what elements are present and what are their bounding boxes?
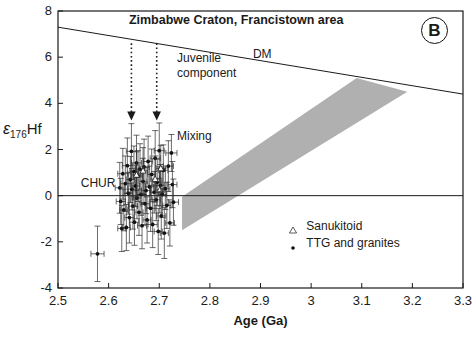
figure-panel-b: 86420-2-42.52.62.72.82.933.13.23.3ε176Hf… bbox=[0, 0, 474, 341]
y-tick-label: 6 bbox=[24, 50, 52, 63]
data-point bbox=[122, 138, 132, 193]
legend-open-triangle-icon bbox=[288, 221, 298, 231]
marker-filled-dot bbox=[125, 164, 129, 168]
legend: SanukitoidTTG and granites bbox=[288, 219, 399, 253]
x-tick-label: 2.9 bbox=[243, 294, 279, 307]
data-point bbox=[118, 205, 126, 251]
legend-label: Sanukitoid bbox=[306, 219, 362, 233]
marker-filled-dot bbox=[119, 200, 123, 204]
y-tick-label: 2 bbox=[24, 143, 52, 156]
marker-filled-dot bbox=[145, 218, 149, 222]
data-point bbox=[91, 226, 104, 281]
marker-filled-dot bbox=[146, 160, 150, 164]
arrow-juvenile-1-head bbox=[127, 111, 135, 120]
marker-filled-dot bbox=[133, 220, 137, 224]
marker-filled-dot bbox=[170, 151, 174, 155]
y-axis-label: ε176Hf bbox=[3, 121, 42, 140]
legend-filled-dot-icon bbox=[288, 238, 298, 248]
x-axis-label: Age (Ga) bbox=[221, 314, 301, 327]
plot-canvas bbox=[0, 0, 474, 341]
marker-filled-dot bbox=[130, 149, 134, 153]
marker-filled-dot bbox=[172, 200, 176, 204]
marker-filled-dot bbox=[151, 223, 155, 227]
chart-title: Zimbabwe Craton, Francistown area bbox=[129, 14, 344, 27]
marker-filled-dot bbox=[127, 216, 131, 220]
marker-filled-dot bbox=[121, 172, 125, 176]
annotation-dm-label: DM bbox=[253, 47, 272, 61]
panel-label-b: B bbox=[421, 17, 448, 44]
marker-filled-dot bbox=[124, 226, 128, 230]
data-point bbox=[156, 145, 165, 191]
marker-filled-dot bbox=[158, 183, 162, 187]
legend-label: TTG and granites bbox=[306, 236, 399, 250]
y-tick-label: -4 bbox=[24, 281, 52, 294]
y-tick-label: 0 bbox=[24, 189, 52, 202]
x-tick-label: 3.3 bbox=[445, 294, 474, 307]
series-ttg-and-granites bbox=[91, 123, 179, 282]
marker-filled-dot bbox=[156, 230, 160, 234]
x-tick-label: 3.1 bbox=[344, 294, 380, 307]
annotation-juvenile-component: Juvenilecomponent bbox=[177, 51, 236, 79]
annotation-mixing: Mixing bbox=[177, 129, 212, 143]
marker-filled-dot bbox=[120, 227, 124, 231]
marker-filled-dot bbox=[166, 164, 170, 168]
marker-filled-dot bbox=[162, 231, 166, 235]
x-tick-label: 2.5 bbox=[40, 294, 76, 307]
y-tick-label: 8 bbox=[24, 4, 52, 17]
marker-filled-dot bbox=[150, 173, 154, 177]
legend-item-sanukitoid: Sanukitoid bbox=[288, 219, 399, 233]
marker-filled-dot bbox=[168, 221, 172, 225]
x-tick-label: 2.7 bbox=[141, 294, 177, 307]
annotation-chur-label: CHUR bbox=[81, 176, 116, 190]
marker-filled-dot bbox=[96, 252, 100, 256]
data-point bbox=[132, 152, 141, 198]
y-tick-label: 4 bbox=[24, 96, 52, 109]
x-tick-label: 3 bbox=[293, 294, 329, 307]
mixing-array-band bbox=[182, 78, 407, 230]
x-tick-label: 2.8 bbox=[192, 294, 228, 307]
legend-item-ttg-and-granites: TTG and granites bbox=[288, 236, 399, 250]
arrow-juvenile-2-head bbox=[153, 111, 161, 120]
y-tick-label: -2 bbox=[24, 235, 52, 248]
marker-filled-dot bbox=[149, 206, 153, 210]
marker-filled-dot bbox=[144, 189, 148, 193]
x-tick-label: 2.6 bbox=[91, 294, 127, 307]
x-tick-label: 3.2 bbox=[394, 294, 430, 307]
marker-filled-dot bbox=[137, 210, 141, 214]
